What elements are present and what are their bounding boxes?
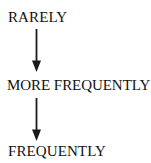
down-arrow-icon-more-frequently-to-frequently <box>28 98 46 141</box>
frequency-flow-diagram: RARELY MORE FREQUENTLY FREQUENTLY <box>0 0 151 163</box>
node-label-more-frequently: MORE FREQUENTLY <box>7 77 150 94</box>
node-label-rarely: RARELY <box>8 9 67 26</box>
node-label-frequently: FREQUENTLY <box>8 143 106 160</box>
down-arrow-icon-rarely-to-more-frequently <box>28 29 46 72</box>
